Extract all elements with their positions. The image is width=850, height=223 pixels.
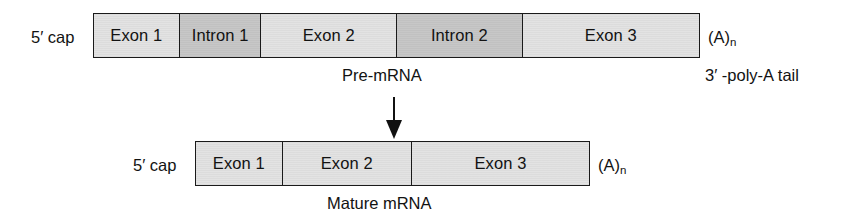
mature-mrna-segment-exon-1: Exon 1	[196, 142, 283, 185]
pre-mrna-segment-intron-1-label: Intron 1	[192, 26, 249, 45]
pre-mrna-polyA-label: (A)n	[708, 29, 736, 46]
pre-mrna-caption: Pre-mRNA	[342, 67, 422, 84]
pre-mrna-bar: Exon 1 Intron 1 Exon 2 Intron 2 Exon 3	[93, 13, 700, 58]
mature-mrna-segment-exon-3: Exon 3	[412, 142, 589, 185]
pre-mrna-tail-note-text: 3′ -poly-A tail	[705, 66, 799, 84]
pre-mrna-segment-exon-2-label: Exon 2	[303, 26, 355, 45]
pre-mrna-segment-exon-1-label: Exon 1	[110, 26, 162, 45]
mature-mrna-polyA-label: (A)n	[598, 157, 626, 174]
mature-mrna-caption-text: Mature mRNA	[327, 194, 432, 212]
mature-mrna-polyA-text: (A)	[598, 156, 620, 174]
pre-mrna-caption-text: Pre-mRNA	[342, 66, 422, 84]
diagram-canvas: 5′ cap Exon 1 Intron 1 Exon 2 Intron 2 E…	[0, 0, 850, 223]
mature-mrna-bar: Exon 1 Exon 2 Exon 3	[195, 141, 590, 186]
splicing-arrow-head	[386, 120, 402, 139]
pre-mrna-5prime-cap-text: 5′ cap	[31, 28, 74, 46]
mature-mrna-segment-exon-2-label: Exon 2	[321, 154, 373, 173]
pre-mrna-tail-note: 3′ -poly-A tail	[705, 67, 799, 84]
mature-mrna-caption: Mature mRNA	[327, 195, 432, 212]
pre-mrna-polyA-subscript: n	[730, 36, 736, 48]
pre-mrna-segment-exon-3: Exon 3	[523, 14, 699, 57]
pre-mrna-polyA-text: (A)	[708, 28, 730, 46]
pre-mrna-5prime-cap-label: 5′ cap	[31, 29, 74, 46]
mature-mrna-5prime-cap-label: 5′ cap	[133, 157, 176, 174]
mature-mrna-segment-exon-2: Exon 2	[283, 142, 412, 185]
pre-mrna-segment-exon-1: Exon 1	[94, 14, 180, 57]
mature-mrna-5prime-cap-text: 5′ cap	[133, 156, 176, 174]
mature-mrna-segment-exon-1-label: Exon 1	[213, 154, 265, 173]
mature-mrna-segment-exon-3-label: Exon 3	[474, 154, 526, 173]
pre-mrna-segment-exon-2: Exon 2	[261, 14, 397, 57]
pre-mrna-segment-exon-3-label: Exon 3	[585, 26, 637, 45]
pre-mrna-segment-intron-2: Intron 2	[397, 14, 523, 57]
splicing-arrow	[385, 97, 403, 139]
pre-mrna-segment-intron-2-label: Intron 2	[431, 26, 488, 45]
mature-mrna-polyA-subscript: n	[620, 164, 626, 176]
pre-mrna-segment-intron-1: Intron 1	[180, 14, 262, 57]
